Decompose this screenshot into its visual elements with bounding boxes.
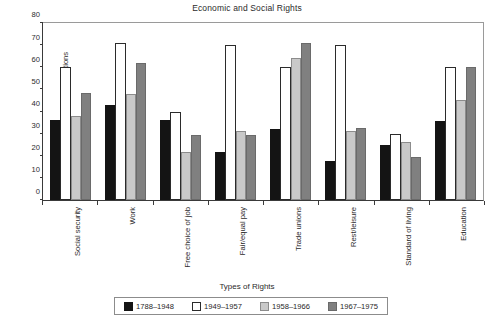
bar[interactable] — [335, 45, 345, 200]
bar-group-bars — [435, 23, 476, 200]
x-tick-label: Free choice of job — [183, 207, 192, 267]
legend-swatch — [260, 302, 269, 311]
bar[interactable] — [160, 120, 170, 200]
bar[interactable] — [456, 100, 466, 200]
bar[interactable] — [115, 43, 125, 200]
y-tick-label: 40 — [32, 100, 40, 108]
bar[interactable] — [466, 67, 476, 200]
bar-group-bars — [50, 23, 91, 200]
legend-label: 1788–1948 — [136, 302, 174, 311]
bar[interactable] — [390, 134, 400, 200]
x-label-cell: Free choice of job — [153, 205, 208, 275]
x-tick-label: Work — [128, 207, 137, 225]
bar[interactable] — [81, 93, 91, 200]
bar[interactable] — [401, 142, 411, 200]
bar[interactable] — [181, 152, 191, 200]
bar[interactable] — [60, 67, 70, 200]
bar[interactable] — [291, 58, 301, 200]
bar[interactable] — [270, 129, 280, 200]
legend-label: 1958–1966 — [272, 302, 310, 311]
bar-group — [43, 23, 98, 200]
x-label-cell: Education — [429, 205, 484, 275]
bar-group-bars — [215, 23, 256, 200]
bar[interactable] — [346, 131, 356, 200]
legend-item[interactable]: 1967–1975 — [328, 302, 378, 311]
bar-group-bars — [270, 23, 311, 200]
x-tick-label: Trade unions — [294, 207, 303, 251]
x-tick-label: Standard of living — [404, 207, 413, 266]
bar[interactable] — [280, 67, 290, 200]
legend-item[interactable]: 1788–1948 — [124, 302, 174, 311]
legend-swatch — [124, 302, 133, 311]
x-label-cell: Rest/leisure — [318, 205, 373, 275]
chart-legend: 1788–19481949–19571958–19661967–1975 — [114, 297, 388, 315]
bar[interactable] — [445, 67, 455, 200]
x-tick-label: Fair/equal pay — [238, 207, 247, 255]
bar-group — [263, 23, 318, 200]
bar-group-bars — [160, 23, 201, 200]
bar[interactable] — [191, 135, 201, 200]
bar[interactable] — [246, 135, 256, 200]
bar[interactable] — [301, 43, 311, 200]
y-tick-label: 60 — [32, 56, 40, 64]
y-tick-label: 50 — [32, 78, 40, 86]
bar[interactable] — [105, 105, 115, 200]
bar[interactable] — [126, 94, 136, 200]
bar[interactable] — [225, 45, 235, 200]
bar-group-bars — [105, 23, 146, 200]
x-tick-mark — [484, 201, 485, 205]
bar-group — [98, 23, 153, 200]
bar[interactable] — [435, 121, 445, 200]
bar-group-bars — [380, 23, 421, 200]
y-tick-label: 0 — [36, 189, 40, 197]
bar-group — [208, 23, 263, 200]
bar[interactable] — [325, 161, 335, 200]
x-axis-labels: Social securityWorkFree choice of jobFai… — [42, 205, 484, 275]
legend-label: 1949–1957 — [204, 302, 242, 311]
bar[interactable] — [215, 152, 225, 200]
y-tick-label: 20 — [32, 144, 40, 152]
bar[interactable] — [50, 120, 60, 200]
bar[interactable] — [136, 63, 146, 200]
bar[interactable] — [380, 145, 390, 200]
bar-group — [373, 23, 428, 200]
x-label-cell: Work — [97, 205, 152, 275]
bar-groups — [43, 23, 483, 200]
legend-label: 1967–1975 — [340, 302, 378, 311]
legend-item[interactable]: 1949–1957 — [192, 302, 242, 311]
bar-group — [153, 23, 208, 200]
bar-group-bars — [325, 23, 366, 200]
bar[interactable] — [236, 131, 246, 200]
y-tick-label: 10 — [32, 166, 40, 174]
x-tick-label: Rest/leisure — [349, 207, 358, 247]
x-axis-label: Types of Rights — [0, 282, 494, 291]
x-tick-label: Education — [459, 207, 468, 241]
legend-swatch — [192, 302, 201, 311]
chart-figure: Economic and Social Rights Percentage of… — [0, 0, 494, 324]
legend-item[interactable]: 1958–1966 — [260, 302, 310, 311]
legend-swatch — [328, 302, 337, 311]
bar-group — [318, 23, 373, 200]
y-tick-label: 30 — [32, 122, 40, 130]
x-tick-label: Social security — [73, 207, 82, 256]
bar[interactable] — [71, 116, 81, 200]
bar[interactable] — [356, 128, 366, 200]
plot-area: Percentage of National Constitutions 010… — [42, 22, 484, 201]
bar[interactable] — [170, 112, 180, 201]
x-label-cell: Social security — [42, 205, 97, 275]
x-label-cell: Trade unions — [263, 205, 318, 275]
x-label-cell: Fair/equal pay — [208, 205, 263, 275]
bar[interactable] — [411, 157, 421, 200]
bar-group — [428, 23, 483, 200]
y-tick-label: 80 — [32, 12, 40, 20]
y-tick-label: 70 — [32, 34, 40, 42]
chart-title: Economic and Social Rights — [0, 3, 494, 13]
x-label-cell: Standard of living — [374, 205, 429, 275]
